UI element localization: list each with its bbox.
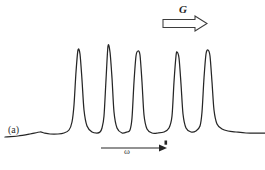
gradient-arrow-label: G — [179, 4, 187, 15]
frequency-axis-label: ω — [124, 147, 130, 156]
gradient-arrow-outline — [163, 16, 207, 31]
frequency-axis-arrowhead — [159, 145, 167, 152]
frequency-axis — [101, 141, 167, 152]
spectrum-trace-path — [5, 45, 265, 137]
figure-container: (a) G ω — [0, 0, 265, 170]
panel-label: (a) — [8, 125, 19, 135]
gradient-arrow — [163, 16, 207, 31]
frequency-axis-end-marker — [165, 141, 168, 145]
spectrum-plot — [0, 0, 265, 170]
